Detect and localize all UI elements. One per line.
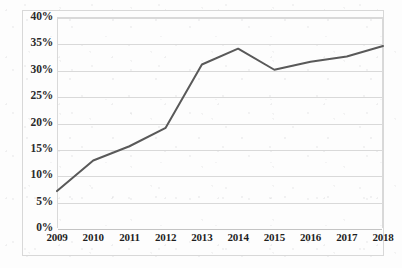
x-axis-tick-label-2018: 2018 — [372, 231, 393, 243]
gridline-40pct — [58, 18, 382, 19]
x-axis-tick-label-2009: 2009 — [46, 231, 67, 243]
gridline-25pct — [58, 97, 382, 98]
y-axis-tick-label: 35% — [31, 36, 53, 48]
y-axis-tick-label: 40% — [31, 10, 53, 22]
gridline-30pct — [58, 71, 382, 72]
x-axis-tick-label-2013: 2013 — [191, 231, 212, 243]
x-axis-tick-label-2017: 2017 — [336, 231, 357, 243]
gridline-20pct — [58, 124, 382, 125]
x-axis-tick-label-2015: 2015 — [264, 231, 285, 243]
y-axis-tick-label: 5% — [36, 195, 53, 207]
gridline-15pct — [58, 150, 382, 151]
gridline-0pct — [58, 229, 382, 230]
x-axis-tick-label-2014: 2014 — [228, 231, 249, 243]
x-axis-tick-label-2011: 2011 — [119, 231, 140, 243]
gridline-10pct — [58, 176, 382, 177]
y-axis-tick-label: 25% — [31, 89, 53, 101]
y-axis-tick-label: 15% — [31, 142, 53, 154]
gridline-35pct — [58, 44, 382, 45]
x-axis-tick-label-2010: 2010 — [83, 231, 104, 243]
y-axis-tick-label: 30% — [31, 63, 53, 75]
y-axis-tick-label: 20% — [31, 116, 53, 128]
x-axis-tick-label-2012: 2012 — [155, 231, 176, 243]
y-axis-tick-label: 10% — [31, 168, 53, 180]
chart-figure: 0%5%10%15%20%25%30%35%40%200920102011201… — [0, 0, 402, 268]
x-axis-tick-label-2016: 2016 — [300, 231, 321, 243]
plot-area — [57, 17, 383, 228]
gridline-5pct — [58, 203, 382, 204]
